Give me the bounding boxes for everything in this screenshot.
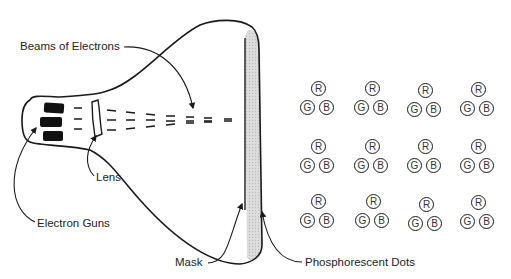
red-dot: R xyxy=(365,81,380,96)
green-dot: G xyxy=(300,100,315,115)
green-dot: G xyxy=(460,214,475,229)
blue-dot: B xyxy=(373,158,388,173)
blue-dot: B xyxy=(319,158,334,173)
red-dot: R xyxy=(471,139,486,154)
label-beams-of-electrons: Beams of Electrons xyxy=(20,41,120,53)
blue-dot: B xyxy=(479,101,494,116)
green-dot: G xyxy=(407,102,422,117)
blue-dot: B xyxy=(373,100,388,115)
green-dot: G xyxy=(408,216,423,231)
lens-element xyxy=(92,100,102,137)
mask-leader xyxy=(208,204,242,263)
rgb-triad: R G B xyxy=(355,194,399,236)
label-mask: Mask xyxy=(175,257,202,269)
blue-dot: B xyxy=(426,102,441,117)
rgb-triad: R G B xyxy=(300,81,344,123)
green-dot: G xyxy=(460,158,475,173)
blue-dot: B xyxy=(479,214,494,229)
blue-dot: B xyxy=(374,213,389,228)
label-phosphorescent-dots: Phosphorescent Dots xyxy=(305,257,415,269)
blue-dot: B xyxy=(479,158,494,173)
rgb-triad: R G B xyxy=(300,139,344,181)
label-lens: Lens xyxy=(96,172,121,184)
blue-dot: B xyxy=(427,216,442,231)
label-electron-guns: Electron Guns xyxy=(37,218,110,230)
red-dot: R xyxy=(366,194,381,209)
blue-dot: B xyxy=(426,158,441,173)
rgb-triad: R G B xyxy=(460,195,504,237)
rgb-triad: R G B xyxy=(300,194,344,236)
red-dot: R xyxy=(418,83,433,98)
green-dot: G xyxy=(354,158,369,173)
rgb-triad: R G B xyxy=(407,139,451,181)
red-dot: R xyxy=(311,81,326,96)
rgb-triad: R G B xyxy=(354,139,398,181)
green-dot: G xyxy=(354,100,369,115)
rgb-triad: R G B xyxy=(460,139,504,181)
red-dot: R xyxy=(471,195,486,210)
rgb-triad: R G B xyxy=(354,81,398,123)
electron-guns xyxy=(40,102,64,141)
rgb-triad: R G B xyxy=(407,83,451,125)
red-dot: R xyxy=(365,139,380,154)
rgb-triad: R G B xyxy=(408,197,452,239)
blue-dot: B xyxy=(319,213,334,228)
green-dot: G xyxy=(300,158,315,173)
lens-leader xyxy=(87,136,96,176)
blue-dot: B xyxy=(319,100,334,115)
green-dot: G xyxy=(300,213,315,228)
red-dot: R xyxy=(418,139,433,154)
rgb-triad: R G B xyxy=(460,82,504,124)
green-dot: G xyxy=(407,158,422,173)
red-dot: R xyxy=(311,194,326,209)
red-dot: R xyxy=(419,197,434,212)
red-dot: R xyxy=(471,82,486,97)
phosphor-leader xyxy=(262,212,302,262)
green-dot: G xyxy=(460,101,475,116)
green-dot: G xyxy=(355,213,370,228)
red-dot: R xyxy=(311,139,326,154)
